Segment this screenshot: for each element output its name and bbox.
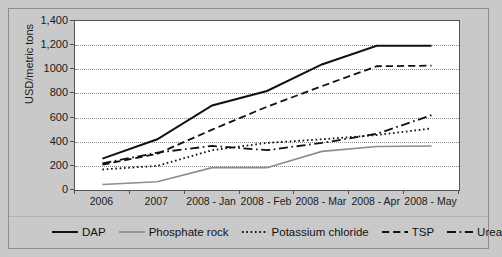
x-axis-tick-label: 2007	[145, 195, 168, 207]
y-axis-tick-label: 400	[24, 135, 68, 147]
series-line-potassium-chloride	[102, 128, 431, 169]
legend-label: TSP	[412, 226, 434, 238]
legend-item-urea[interactable]: Urea	[447, 226, 502, 238]
legend-item-phosphate-rock[interactable]: Phosphate rock	[119, 226, 229, 238]
y-axis-tick-label: 1,200	[24, 38, 68, 50]
legend-item-potassium-chloride[interactable]: Potassium chloride	[242, 226, 369, 238]
legend-label: DAP	[82, 226, 106, 238]
y-axis-tick-label: 1,400	[24, 14, 68, 26]
legend-swatch-icon	[242, 227, 268, 237]
series-line-dap	[102, 46, 431, 159]
x-axis-tick-label: 2008 - Jan	[186, 195, 236, 207]
x-axis-tick-label: 2008 - Feb	[241, 195, 292, 207]
x-axis-tick-mark	[403, 190, 404, 194]
series-line-urea	[102, 115, 431, 163]
plot-inner	[75, 21, 459, 190]
x-axis-tick-mark	[129, 190, 130, 194]
legend-separator	[9, 216, 488, 217]
legend-label: Phosphate rock	[149, 226, 229, 238]
x-axis-tick-label: 2008 - May	[404, 195, 457, 207]
y-axis-tick-label: 600	[24, 111, 68, 123]
x-axis-tick-mark	[348, 190, 349, 194]
legend-swatch-icon	[52, 227, 78, 237]
x-axis-tick-mark	[293, 190, 294, 194]
y-axis-tick-label: 200	[24, 159, 68, 171]
legend-swatch-icon	[382, 227, 408, 237]
series-lines	[75, 21, 459, 190]
legend-label: Potassium chloride	[272, 226, 369, 238]
legend-item-tsp[interactable]: TSP	[382, 226, 434, 238]
x-axis-tick-mark	[239, 190, 240, 194]
x-axis-tick-label: 2008 - Mar	[295, 195, 346, 207]
x-axis-tick-label: 2008 - Apr	[351, 195, 399, 207]
x-axis-tick-mark	[458, 190, 459, 194]
x-axis-tick-mark	[74, 190, 75, 194]
x-axis-tick-label: 2006	[90, 195, 113, 207]
y-axis-tick-label: 0	[24, 183, 68, 195]
series-line-phosphate-rock	[102, 146, 431, 185]
plot-area	[74, 20, 460, 191]
y-axis-tick-label: 1000	[24, 62, 68, 74]
x-axis-tick-mark	[184, 190, 185, 194]
legend-swatch-icon	[447, 227, 473, 237]
legend-swatch-icon	[119, 227, 145, 237]
y-axis-tick-label: 800	[24, 86, 68, 98]
legend-label: Urea	[477, 226, 502, 238]
legend-item-dap[interactable]: DAP	[52, 226, 106, 238]
chart-legend: DAPPhosphate rockPotassium chlorideTSPUr…	[52, 226, 502, 238]
